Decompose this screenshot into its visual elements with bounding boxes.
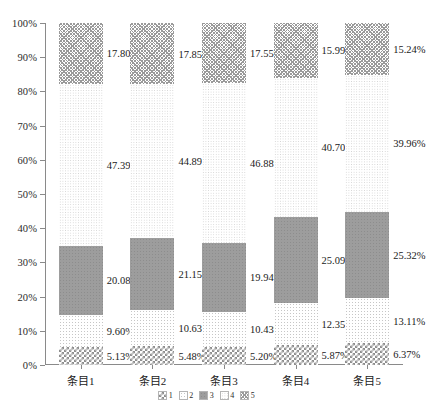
x-axis-label-5: 条目5 [353,372,381,388]
legend-item-2[interactable]: 2 [179,391,194,400]
bar-3[interactable]: 5.20%10.43%19.94%46.88%17.55% [202,23,246,365]
y-tick [40,126,45,127]
x-axis-label-1: 条目1 [67,372,95,388]
legend-swatch-icon [158,391,167,400]
y-tick-label: 100% [12,18,37,29]
bar-5[interactable]: 6.37%13.11%25.32%39.96%15.24% [345,23,389,365]
y-tick-label: 30% [17,257,37,268]
segment-value-label: 39.96% [393,138,425,149]
bar-segment-series-1[interactable]: 6.37% [345,343,389,365]
bar-segment-series-3[interactable]: 25.32% [345,212,389,299]
bar-segment-series-2[interactable]: 10.63% [130,310,174,346]
x-tick [152,365,153,369]
bar-4[interactable]: 5.87%12.35%25.09%40.70%15.99% [274,23,318,365]
bar-segment-series-5[interactable]: 17.80% [59,23,103,84]
bar-segment-series-2[interactable]: 10.43% [202,312,246,348]
chart-legend: 12345 [0,391,413,400]
y-tick [40,194,45,195]
bar-segment-series-3[interactable]: 21.15% [130,238,174,310]
bar-segment-series-4[interactable]: 40.70% [274,78,318,217]
bar-segment-series-5[interactable]: 15.99% [274,23,318,78]
legend-item-1[interactable]: 1 [158,391,173,400]
segment-value-label: 15.24% [393,44,425,55]
bar-segment-series-3[interactable]: 25.09% [274,217,318,303]
segment-value-label: 13.11% [393,315,425,326]
y-tick [40,57,45,58]
y-tick [40,160,45,161]
bar-segment-series-5[interactable]: 17.55% [202,23,246,83]
bar-segment-series-4[interactable]: 39.96% [345,75,389,212]
legend-label: 2 [189,391,193,400]
y-tick-label: 80% [17,86,37,97]
y-axis-line [45,23,46,365]
legend-label: 1 [169,391,173,400]
y-tick [40,23,45,24]
x-axis-label-3: 条目3 [210,372,238,388]
x-tick [367,365,368,369]
x-tick [296,365,297,369]
legend-item-3[interactable]: 3 [199,391,214,400]
bar-2[interactable]: 5.48%10.63%21.15%44.89%17.85% [130,23,174,365]
y-tick-label: 0% [23,360,37,371]
y-tick-label: 20% [17,291,37,302]
bar-segment-series-4[interactable]: 47.39% [59,84,103,246]
y-tick-label: 10% [17,325,37,336]
segment-value-label: 25.32% [393,250,425,261]
y-tick-label: 90% [17,52,37,63]
y-tick [40,331,45,332]
bar-1[interactable]: 5.13%9.60%20.08%47.39%17.80% [59,23,103,365]
bar-segment-series-1[interactable]: 5.48% [130,346,174,365]
legend-swatch-icon [220,391,229,400]
y-tick-label: 60% [17,154,37,165]
y-tick-label: 70% [17,120,37,131]
plot-area: 0%10%20%30%40%50%60%70%80%90%100% 5.13%9… [45,23,403,365]
bar-segment-series-4[interactable]: 44.89% [130,84,174,238]
bar-segment-series-3[interactable]: 20.08% [59,246,103,315]
bar-segment-series-2[interactable]: 9.60% [59,315,103,348]
y-tick [40,228,45,229]
legend-label: 5 [251,391,255,400]
legend-swatch-icon [179,391,188,400]
y-tick-label: 40% [17,223,37,234]
x-axis-label-2: 条目2 [139,372,167,388]
bar-segment-series-3[interactable]: 19.94% [202,243,246,311]
legend-item-5[interactable]: 5 [240,391,255,400]
legend-item-4[interactable]: 4 [220,391,235,400]
bar-segment-series-5[interactable]: 17.85% [130,23,174,84]
legend-label: 3 [210,391,214,400]
x-tick [81,365,82,369]
bar-segment-series-1[interactable]: 5.20% [202,347,246,365]
bar-segment-series-2[interactable]: 13.11% [345,298,389,343]
segment-value-label: 6.37% [393,349,420,360]
y-tick [40,262,45,263]
bar-segment-series-4[interactable]: 46.88% [202,83,246,243]
bar-segment-series-1[interactable]: 5.13% [59,347,103,365]
legend-swatch-icon [240,391,249,400]
y-tick [40,365,45,366]
legend-label: 4 [230,391,234,400]
bar-segment-series-2[interactable]: 12.35% [274,303,318,345]
y-tick [40,91,45,92]
bar-segment-series-5[interactable]: 15.24% [345,23,389,75]
x-tick [224,365,225,369]
legend-swatch-icon [199,391,208,400]
y-tick [40,297,45,298]
bar-segment-series-1[interactable]: 5.87% [274,345,318,365]
y-tick-label: 50% [17,189,37,200]
x-axis-label-4: 条目4 [282,372,310,388]
